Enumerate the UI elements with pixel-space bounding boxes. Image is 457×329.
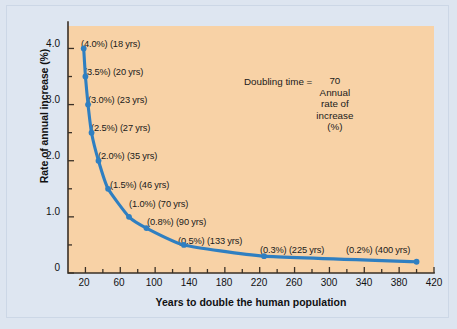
figure-container: Rate of annual increase (%) Years to dou… bbox=[0, 0, 457, 329]
x-tick-label: 260 bbox=[274, 277, 314, 288]
x-tick-label: 180 bbox=[204, 277, 244, 288]
data-point-label: (3.0%) (23 yrs) bbox=[88, 95, 147, 105]
formula-fraction: 70 Annual rate of increase (%) bbox=[316, 75, 353, 133]
formula-denominator-line: Annual bbox=[316, 87, 353, 99]
x-axis-title: Years to double the human population bbox=[68, 296, 434, 308]
data-point-label: (0.5%) (133 yrs) bbox=[178, 236, 242, 246]
y-tick-label: 4.0 bbox=[26, 38, 60, 49]
formula-left-hand-side: Doubling time = bbox=[244, 75, 312, 87]
x-tick-label: 140 bbox=[169, 277, 209, 288]
data-point-label: (1.0%) (70 yrs) bbox=[129, 199, 188, 209]
x-tick-label: 420 bbox=[414, 277, 454, 288]
formula-denominator-line: increase bbox=[316, 110, 353, 122]
data-point-label: (2.5%) (27 yrs) bbox=[91, 123, 150, 133]
data-point-label: (1.5%) (46 yrs) bbox=[110, 180, 169, 190]
y-tick-label: 0 bbox=[26, 262, 60, 273]
figure-panel: Rate of annual increase (%) Years to dou… bbox=[6, 5, 449, 318]
data-point-label: (0.2%) (400 yrs) bbox=[346, 245, 410, 255]
x-tick-label: 380 bbox=[379, 277, 419, 288]
formula-denominator-line: (%) bbox=[316, 121, 353, 133]
x-tick-label: 20 bbox=[64, 277, 104, 288]
y-tick-label: 2.0 bbox=[26, 150, 60, 161]
x-tick-label: 60 bbox=[99, 277, 139, 288]
y-tick-label: 3.0 bbox=[26, 94, 60, 105]
data-point-label: (0.3%) (225 yrs) bbox=[260, 245, 324, 255]
formula-denominator-line: rate of bbox=[316, 98, 353, 110]
x-tick-label: 100 bbox=[134, 277, 174, 288]
formula-denominator: Annual rate of increase (%) bbox=[316, 87, 353, 133]
x-tick-label: 220 bbox=[239, 277, 279, 288]
y-tick-label: 1.0 bbox=[26, 206, 60, 217]
data-point-label: (2.0%) (35 yrs) bbox=[98, 151, 157, 161]
data-point-label: (3.5%) (20 yrs) bbox=[84, 67, 143, 77]
plot-area bbox=[68, 26, 434, 273]
x-tick-label: 300 bbox=[309, 277, 349, 288]
x-tick-label: 340 bbox=[344, 277, 384, 288]
formula-numerator: 70 bbox=[319, 75, 350, 87]
data-point-label: (0.8%) (90 yrs) bbox=[147, 217, 206, 227]
doubling-time-formula: Doubling time = 70 Annual rate of increa… bbox=[244, 75, 353, 133]
data-point-label: (4.0%) (18 yrs) bbox=[81, 39, 140, 49]
